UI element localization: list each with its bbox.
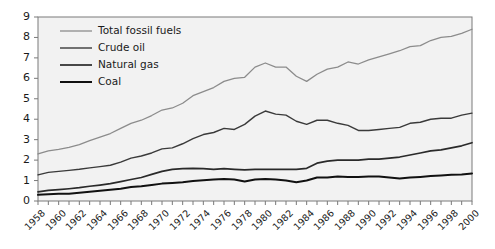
x-axis-ticks	[38, 201, 472, 205]
legend-label-crude-oil: Crude oil	[98, 42, 145, 53]
y-tick-label: 5	[12, 93, 30, 104]
y-tick-label: 7	[12, 52, 30, 63]
chart-figure: 0123456789 19581960196219641966196819701…	[0, 0, 495, 249]
y-tick-label: 0	[12, 195, 30, 206]
y-tick-label: 3	[12, 134, 30, 145]
y-tick-label: 6	[12, 72, 30, 83]
y-axis-ticks	[34, 17, 38, 201]
y-tick-label: 4	[12, 113, 30, 124]
legend-label-total-fossil-fuels: Total fossil fuels	[98, 25, 181, 36]
y-tick-label: 2	[12, 154, 30, 165]
legend-label-coal: Coal	[98, 76, 121, 87]
y-tick-label: 8	[12, 31, 30, 42]
y-tick-label: 9	[12, 11, 30, 22]
legend-label-natural-gas: Natural gas	[98, 59, 159, 70]
y-tick-label: 1	[12, 175, 30, 186]
